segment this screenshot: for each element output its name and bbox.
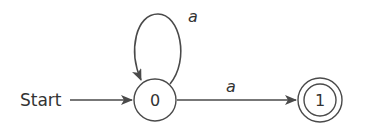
state-0: 0 — [134, 79, 176, 121]
state-1-label: 1 — [315, 91, 325, 110]
state-1: 1 — [298, 78, 342, 122]
automaton-diagram: Start a a 0 1 — [0, 0, 370, 136]
state-0-label: 0 — [150, 91, 160, 110]
start-label: Start — [20, 90, 62, 110]
self-loop-label: a — [188, 7, 198, 26]
self-loop-edge-0 — [135, 14, 181, 84]
transition-0-to-1-label: a — [226, 77, 236, 96]
